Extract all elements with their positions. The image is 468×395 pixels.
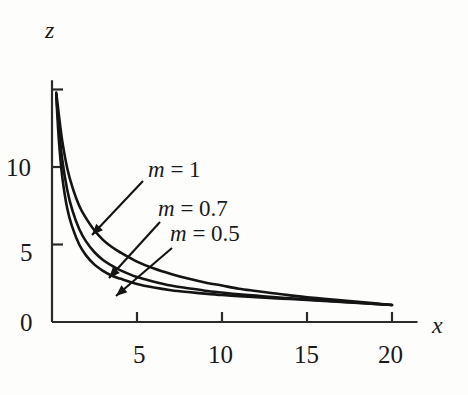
annotation-value-m1: 1 <box>189 157 201 182</box>
x-tick-label-5: 5 <box>133 342 146 367</box>
series-annotation-m07: m = 0.7 <box>158 197 228 220</box>
annotation-equals-m1: = <box>165 157 189 182</box>
axes-group <box>52 80 418 322</box>
annotation-equals-m07: = <box>175 196 199 221</box>
annotation-value-m07: 0.7 <box>199 196 228 221</box>
x-tick-label-15: 15 <box>294 342 319 367</box>
leader-arrow-0 <box>92 181 143 235</box>
annotation-variable-m1: m <box>148 157 165 182</box>
figure-container: z x 0 5 10 5 10 15 20 m = 1 m = 0.7 m = … <box>0 0 468 395</box>
plot-canvas <box>0 0 468 395</box>
y-tick-label-0: 0 <box>20 310 33 335</box>
y-tick-label-10: 10 <box>6 155 31 180</box>
y-axis-label: z <box>45 18 54 42</box>
annotation-variable-m05: m <box>170 221 187 246</box>
x-tick-label-10: 10 <box>208 342 233 367</box>
x-tick-label-20: 20 <box>378 342 403 367</box>
annotation-value-m05: 0.5 <box>211 221 240 246</box>
x-axis-label: x <box>432 313 443 337</box>
y-tick-label-5: 5 <box>20 240 33 265</box>
annotation-variable-m07: m <box>158 196 175 221</box>
annotation-equals-m05: = <box>187 221 211 246</box>
series-annotation-m05: m = 0.5 <box>170 222 240 245</box>
series-annotation-m1: m = 1 <box>148 158 201 181</box>
